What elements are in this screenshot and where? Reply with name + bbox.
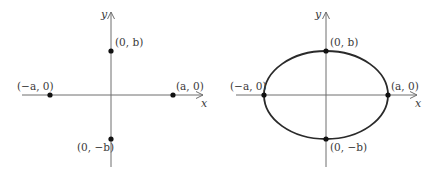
right-y-axis-label: y [314, 8, 322, 21]
right-point-left [261, 92, 266, 97]
right-point-bottom [323, 136, 328, 141]
right-label-right: (a, 0) [391, 80, 419, 92]
left-y-axis-label: y [100, 8, 108, 21]
right-label-top: (0, b) [330, 36, 358, 48]
right-panel: x y (0, b) (a, 0) (−a, 0) (0, −b) [230, 8, 422, 167]
right-point-right [385, 92, 390, 97]
left-label-bottom: (0, −b) [77, 141, 114, 153]
left-point-top [108, 48, 113, 53]
ellipse-diagram: x y (0, b) (a, 0) (−a, 0) (0, −b) x y (0… [0, 0, 438, 177]
right-label-left: (−a, 0) [230, 80, 267, 92]
left-label-right: (a, 0) [176, 80, 204, 92]
left-panel: x y (0, b) (a, 0) (−a, 0) (0, −b) [17, 8, 208, 167]
right-x-axis-label: x [415, 97, 422, 110]
left-point-right [170, 92, 175, 97]
right-label-bottom: (0, −b) [330, 141, 367, 153]
left-label-left: (−a, 0) [17, 80, 54, 92]
left-point-left [47, 92, 52, 97]
left-label-top: (0, b) [115, 36, 143, 48]
left-x-axis-label: x [201, 97, 208, 110]
right-point-top [323, 48, 328, 53]
